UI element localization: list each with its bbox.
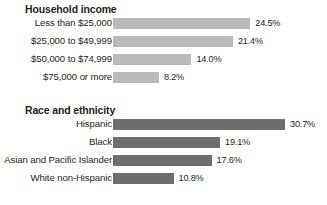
bar [113, 119, 285, 130]
bar [113, 54, 191, 65]
bar-row: $50,000 to $74,999 14.0% [0, 53, 327, 71]
bar-value-label: 8.2% [164, 72, 184, 83]
bar [113, 18, 250, 29]
bar-row: White non-Hispanic 10.8% [0, 172, 327, 190]
bar-track: 17.6% [113, 155, 318, 166]
bar-row: $75,000 or more 8.2% [0, 71, 327, 89]
bar-value-label: 14.0% [196, 54, 221, 65]
category-label: $50,000 to $74,999 [0, 53, 112, 65]
bar-track: 21.4% [113, 36, 318, 47]
panel-title-household-income: Household income [25, 3, 117, 15]
bar [113, 72, 159, 83]
bar-rows-race-and-ethnicity: Hispanic 30.7% Black 19.1% Asian and Pac… [0, 118, 327, 190]
bar-rows-household-income: Less than $25,000 24.5% $25,000 to $49,9… [0, 17, 327, 89]
bar-track: 19.1% [113, 137, 318, 148]
category-label: $25,000 to $49,999 [0, 35, 112, 47]
bar-value-label: 17.6% [217, 155, 242, 166]
bar-value-label: 21.4% [238, 36, 263, 47]
bar [113, 137, 220, 148]
bar-track: 8.2% [113, 72, 318, 83]
bar-row: Black 19.1% [0, 136, 327, 154]
bar-row: Less than $25,000 24.5% [0, 17, 327, 35]
bar-row: Asian and Pacific Islander 17.6% [0, 154, 327, 172]
bar [113, 173, 174, 184]
category-label: $75,000 or more [0, 71, 112, 83]
grouped-bar-chart: Household income Less than $25,000 24.5%… [0, 0, 327, 205]
bar-track: 24.5% [113, 18, 318, 29]
category-label: Less than $25,000 [0, 17, 112, 29]
category-label: Black [0, 136, 112, 148]
category-label: Asian and Pacific Islander [0, 154, 112, 166]
bar-value-label: 30.7% [290, 119, 315, 130]
bar-value-label: 19.1% [225, 137, 250, 148]
bar [113, 36, 233, 47]
category-label: Hispanic [0, 118, 112, 130]
bar-track: 30.7% [113, 119, 318, 130]
panel-title-race-and-ethnicity: Race and ethnicity [25, 104, 115, 116]
bar-row: $25,000 to $49,999 21.4% [0, 35, 327, 53]
category-label: White non-Hispanic [0, 172, 112, 184]
bar-value-label: 24.5% [255, 18, 280, 29]
bar-track: 10.8% [113, 173, 318, 184]
bar [113, 155, 212, 166]
bar-row: Hispanic 30.7% [0, 118, 327, 136]
bar-track: 14.0% [113, 54, 318, 65]
bar-value-label: 10.8% [179, 173, 204, 184]
